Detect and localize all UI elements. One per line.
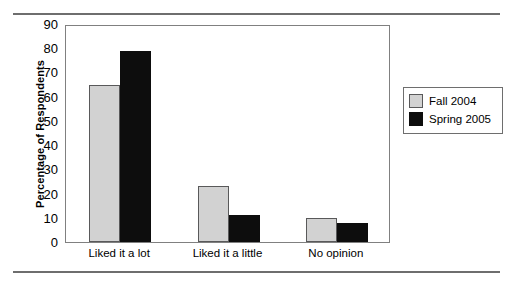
bar-spring-2005-liked-it-a-little xyxy=(229,215,260,242)
legend-item-label: Spring 2005 xyxy=(429,113,491,125)
y-axis-tick-50: 50 xyxy=(28,117,58,127)
x-axis-category-labels: Liked it a lotLiked it a littleNo opinio… xyxy=(65,247,390,267)
top-divider-rule xyxy=(13,13,500,15)
bar-chart-figure: Percentage of Respondents 01020304050607… xyxy=(0,0,513,283)
legend-item-spring-2005: Spring 2005 xyxy=(409,110,497,128)
plot-area xyxy=(65,25,390,243)
y-axis-tick-30: 30 xyxy=(28,165,58,175)
bottom-divider-rule xyxy=(13,271,500,273)
bar-fall-2004-no-opinion xyxy=(306,218,337,242)
y-axis-tick-70: 70 xyxy=(28,68,58,78)
y-axis-tick-labels: 0102030405060708090 xyxy=(28,25,58,243)
legend-swatch-icon xyxy=(409,112,423,126)
bar-fall-2004-liked-it-a-lot xyxy=(89,85,120,242)
y-axis-tick-60: 60 xyxy=(28,93,58,103)
y-axis-tick-0: 0 xyxy=(28,238,58,248)
chart-legend: Fall 2004Spring 2005 xyxy=(403,87,503,134)
legend-item-label: Fall 2004 xyxy=(429,95,476,107)
bar-spring-2005-no-opinion xyxy=(337,223,368,242)
legend-swatch-icon xyxy=(409,94,423,108)
y-axis-tick-10: 10 xyxy=(28,214,58,224)
bar-spring-2005-liked-it-a-lot xyxy=(120,51,151,242)
plot-bars-container xyxy=(66,26,389,242)
y-axis-tick-80: 80 xyxy=(28,44,58,54)
x-axis-label-liked-it-a-lot: Liked it a lot xyxy=(65,247,173,259)
y-axis-tick-40: 40 xyxy=(28,141,58,151)
bar-fall-2004-liked-it-a-little xyxy=(198,186,229,242)
legend-item-fall-2004: Fall 2004 xyxy=(409,92,497,110)
x-axis-label-no-opinion: No opinion xyxy=(282,247,390,259)
y-axis-tick-90: 90 xyxy=(28,20,58,30)
y-axis-tick-20: 20 xyxy=(28,190,58,200)
x-axis-label-liked-it-a-little: Liked it a little xyxy=(173,247,281,259)
